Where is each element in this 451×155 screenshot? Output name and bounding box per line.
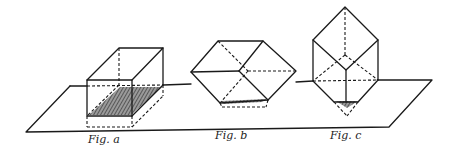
prism-fig-c bbox=[313, 7, 378, 116]
fig-b-label: Fig. b bbox=[215, 130, 247, 141]
prism-fig-b bbox=[191, 41, 296, 107]
prism-fig-a bbox=[87, 48, 163, 127]
fig-a-label: Fig. a bbox=[88, 134, 120, 145]
contact-face-shading bbox=[89, 87, 162, 115]
fig-c-label: Fig. c bbox=[330, 130, 361, 141]
